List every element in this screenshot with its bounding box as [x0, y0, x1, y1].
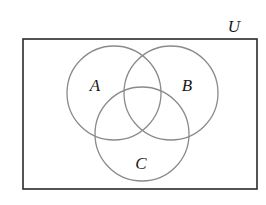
- set-a-label: A: [89, 76, 101, 95]
- set-c-label: C: [135, 154, 147, 173]
- set-b-label: B: [182, 76, 193, 95]
- set-b-circle: [124, 46, 218, 140]
- set-a-circle: [67, 46, 161, 140]
- venn-diagram: U A B C: [0, 0, 266, 205]
- universe-label: U: [228, 17, 242, 36]
